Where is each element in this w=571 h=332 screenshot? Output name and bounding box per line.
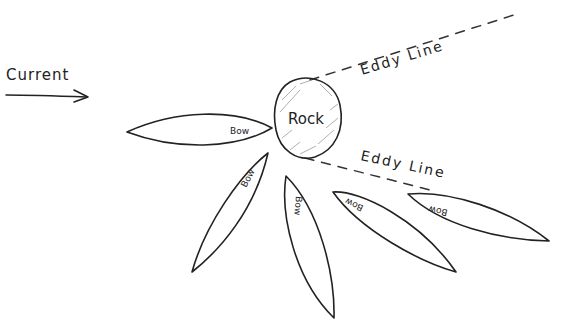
boat-1-bow-label: Bow	[230, 126, 249, 136]
boat-2: Bow	[192, 153, 268, 272]
current-label: Current	[6, 66, 69, 84]
current-arrow-icon	[6, 90, 88, 102]
diagram-svg: Current Eddy Line Eddy Line Rock Bow Bow…	[0, 0, 571, 332]
eddy-turn-diagram: Current Eddy Line Eddy Line Rock Bow Bow…	[0, 0, 571, 332]
boat-4: Bow	[333, 192, 456, 272]
boat-3-bow-label: Bow	[292, 196, 304, 216]
boat-3: Bow	[285, 176, 334, 318]
eddy-line-upper-label: Eddy Line	[358, 37, 445, 78]
boat-5: Bow	[408, 193, 549, 241]
rock: Rock	[275, 78, 342, 158]
rock-label: Rock	[288, 110, 324, 128]
boat-4-bow-label: Bow	[343, 196, 364, 213]
boat-2-bow-label: Bow	[239, 167, 257, 189]
boat-1: Bow	[127, 114, 272, 145]
boat-5-bow-label: Bow	[428, 204, 449, 218]
